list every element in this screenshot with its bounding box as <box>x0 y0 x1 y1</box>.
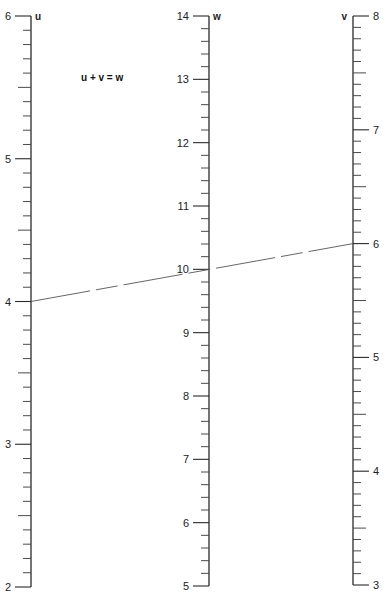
u-tick-label: 6 <box>5 10 11 22</box>
w-tick-label: 13 <box>177 73 189 85</box>
w-scale: 567891011121314w <box>177 10 221 592</box>
v-tick-label: 7 <box>373 124 379 136</box>
u-tick-label: 3 <box>5 438 11 450</box>
w-axis-name: w <box>212 11 221 22</box>
w-tick-label: 6 <box>183 517 189 529</box>
w-tick-label: 9 <box>183 327 189 339</box>
v-tick-label: 4 <box>373 465 379 477</box>
w-tick-label: 11 <box>178 200 189 212</box>
u-scale: 23456u <box>5 10 41 593</box>
u-axis-name: u <box>35 11 41 22</box>
w-tick-label: 8 <box>183 390 189 402</box>
v-tick-label: 8 <box>373 10 379 22</box>
w-tick-label: 10 <box>177 263 189 275</box>
v-axis-name: v <box>341 11 347 22</box>
isopleth-dashed-line <box>31 244 353 302</box>
u-tick-label: 4 <box>5 296 11 308</box>
w-tick-label: 14 <box>177 10 189 22</box>
equation-label: u + v = w <box>81 72 123 83</box>
v-tick-label: 5 <box>373 351 379 363</box>
w-tick-label: 7 <box>183 453 189 465</box>
u-tick-label: 2 <box>5 581 11 593</box>
w-tick-label: 5 <box>183 580 189 592</box>
w-tick-label: 12 <box>177 137 189 149</box>
nomogram-diagram: 23456u 567891011121314w 345678v u + v = … <box>0 0 386 605</box>
u-tick-label: 5 <box>5 153 11 165</box>
v-tick-label: 6 <box>373 238 379 250</box>
v-scale: 345678v <box>341 10 379 591</box>
v-tick-label: 3 <box>373 579 379 591</box>
